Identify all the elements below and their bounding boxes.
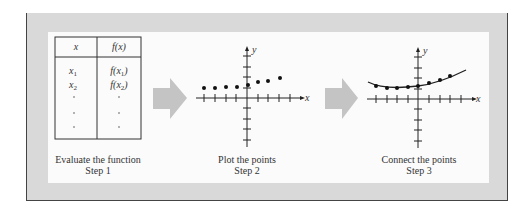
function-table: x f(x) x1 f(x1) x2 f(x2) — [55, 37, 141, 139]
diagram-artwork: x f(x) x1 f(x1) x2 f(x2) — [0, 0, 532, 216]
x-axis-label: x — [304, 92, 310, 103]
step2-caption: Plot the points Step 2 — [197, 154, 297, 176]
arrow-right-icon — [153, 78, 187, 119]
step1-label: Step 1 — [40, 165, 156, 176]
table-cell-fx2: f(x2) — [110, 79, 128, 92]
step2-label: Step 2 — [197, 165, 297, 176]
x-axis-label: x — [475, 93, 481, 104]
table-header-fx: f(x) — [112, 41, 127, 53]
table-cell-fx1: f(x1) — [110, 65, 128, 78]
step3-caption: Connect the points Step 3 — [364, 154, 474, 176]
connect-points-graph — [367, 47, 477, 148]
step3-title: Connect the points — [364, 154, 474, 165]
table-header-x: x — [73, 41, 79, 52]
data-points — [374, 74, 452, 90]
table-cell-x2: x2 — [68, 79, 77, 92]
data-points — [202, 76, 282, 90]
step2-title: Plot the points — [197, 154, 297, 165]
plot-points-graph — [196, 46, 305, 147]
y-axis-label: y — [422, 45, 428, 56]
table-cell-x1: x1 — [68, 65, 77, 78]
step3-label: Step 3 — [364, 165, 474, 176]
step1-title: Evaluate the function — [40, 154, 156, 165]
step1-caption: Evaluate the function Step 1 — [40, 154, 156, 176]
arrow-right-icon — [325, 78, 358, 119]
y-axis-label: y — [251, 44, 257, 55]
